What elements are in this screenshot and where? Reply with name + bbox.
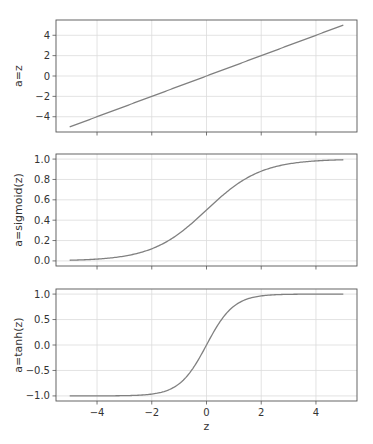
panel-linear: −4−2024a=z: [12, 20, 357, 136]
y-tick-label: 2: [44, 50, 50, 61]
y-tick-label: 4: [44, 30, 50, 41]
y-tick-label: −2: [35, 91, 50, 102]
y-tick-label: −1.0: [26, 390, 50, 401]
y-tick-label: 0.6: [34, 194, 50, 205]
y-tick-label: 0.8: [34, 174, 50, 185]
x-tick-label: 4: [313, 407, 319, 418]
y-tick-label: 0.2: [34, 235, 50, 246]
y-tick-label: 1.0: [34, 289, 50, 300]
y-tick-label: 0.4: [34, 215, 50, 226]
y-tick-label: 0: [44, 71, 50, 82]
figure: −4−2024a=z0.00.20.40.60.81.0a=sigmoid(z)…: [0, 0, 373, 444]
x-tick-label: 0: [203, 407, 209, 418]
y-tick-label: −0.5: [26, 365, 50, 376]
panel-tanh: −1.0−0.50.00.51.0−4−2024a=tanh(z)z: [12, 289, 357, 433]
y-axis-label: a=sigmoid(z): [12, 173, 25, 247]
y-tick-label: 1.0: [34, 154, 50, 165]
y-tick-label: 0.0: [34, 340, 50, 351]
y-tick-label: 0.5: [34, 314, 50, 325]
y-tick-label: 0.0: [34, 255, 50, 266]
y-axis-label: a=z: [12, 65, 25, 87]
x-tick-label: −4: [90, 407, 105, 418]
x-tick-label: −2: [144, 407, 159, 418]
x-tick-label: 2: [258, 407, 264, 418]
x-axis-label: z: [204, 420, 210, 433]
y-axis-label: a=tanh(z): [12, 317, 25, 372]
panel-sigmoid: 0.00.20.40.60.81.0a=sigmoid(z): [12, 154, 357, 270]
y-tick-label: −4: [35, 111, 50, 122]
